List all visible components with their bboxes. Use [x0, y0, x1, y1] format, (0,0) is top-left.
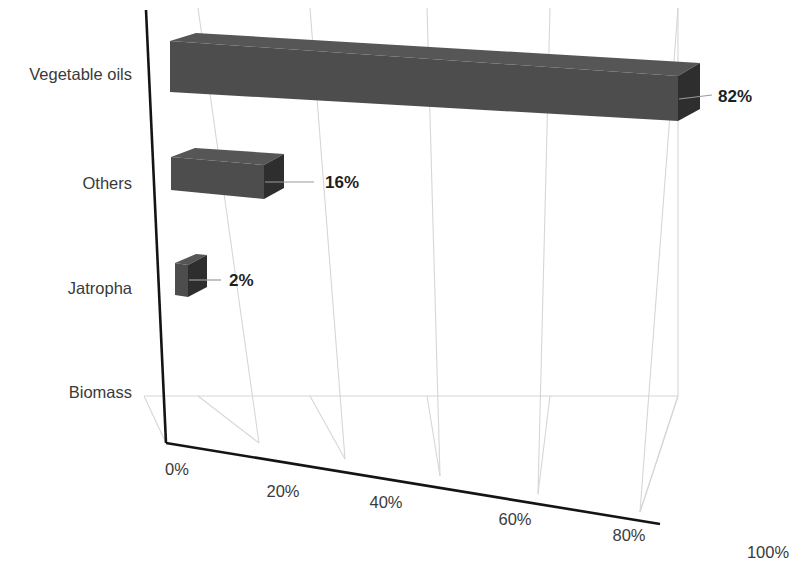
tick-label-0: 0% [165, 460, 189, 478]
chart-canvas: 82% 16% 2% Vegetable oils Others Jatroph… [0, 0, 812, 565]
bar-chart: 82% 16% 2% Vegetable oils Others Jatroph… [0, 0, 812, 565]
category-label-jatropha: Jatropha [68, 279, 133, 297]
category-label-vegetable-oils: Vegetable oils [29, 65, 132, 83]
tick-label-60: 60% [498, 510, 531, 528]
bar-value-label: 82% [718, 87, 752, 106]
tick-label-40: 40% [369, 493, 402, 511]
category-label-others: Others [82, 174, 132, 192]
tick-label-80: 80% [612, 526, 645, 544]
tick-label-20: 20% [266, 482, 299, 500]
bar-front-face [175, 263, 188, 297]
tick-label-100: 100% [747, 543, 790, 561]
category-label-biomass: Biomass [69, 383, 132, 401]
bar-value-label: 16% [325, 173, 359, 192]
bar-value-label: 2% [229, 271, 254, 290]
